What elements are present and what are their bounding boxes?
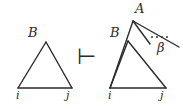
derivation-figure: B i j ⊢ A B i j β — [0, 0, 183, 109]
root-middle-branch-edge — [133, 21, 150, 44]
right-leaf-j-label: j — [160, 90, 163, 101]
turnstile-operator: ⊢ — [77, 46, 96, 68]
right-tree-group — [110, 21, 179, 88]
right-leaf-i-label: i — [108, 90, 112, 101]
root-outer-branch-edge — [133, 21, 179, 47]
beta-branch-label: β — [157, 41, 165, 54]
inner-triangle-left-edge — [110, 41, 128, 88]
left-apex-label: B — [28, 26, 38, 39]
right-inner-b-label: B — [110, 26, 120, 39]
left-triangle-right-edge — [46, 42, 72, 88]
left-triangle-left-edge — [18, 42, 46, 88]
left-leaf-j-label: j — [66, 90, 69, 101]
right-root-a-label: A — [135, 2, 144, 15]
left-triangle-group — [18, 42, 72, 88]
left-leaf-i-label: i — [16, 90, 20, 101]
